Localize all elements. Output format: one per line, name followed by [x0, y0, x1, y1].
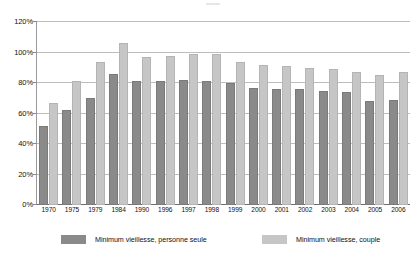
bar-personne-seule: [62, 110, 71, 205]
x-axis-tick-label: 2000: [251, 206, 265, 213]
x-axis-tick-label: 1979: [88, 206, 102, 213]
y-axis-tick-label: 0%: [22, 200, 33, 209]
bar-group: [60, 21, 83, 205]
bar-group: [130, 21, 153, 205]
bar-personne-seule: [272, 89, 281, 205]
y-axis-tick-label: 20%: [18, 169, 33, 178]
y-axis-tick-label: 80%: [18, 78, 33, 87]
legend-item-personne-seule: Minimum vieillesse, personne seule: [61, 233, 207, 246]
scan-artifact: [206, 3, 220, 5]
bar-couple: [189, 54, 198, 205]
x-axis-tick-label: 2003: [321, 206, 335, 213]
bar-couple: [166, 56, 175, 205]
bar-group: [37, 21, 60, 205]
bar-personne-seule: [295, 89, 304, 205]
bar-personne-seule: [179, 80, 188, 205]
x-axis-tick-label: 1996: [158, 206, 172, 213]
bar-personne-seule: [39, 126, 48, 205]
chart-legend: Minimum vieillesse, personne seule Minim…: [0, 233, 419, 249]
bar-group: [293, 21, 316, 205]
x-axis-tick-label: 2005: [368, 206, 382, 213]
bar-couple: [329, 69, 338, 205]
bar-couple: [399, 72, 408, 205]
x-axis-tick-label: 2004: [345, 206, 359, 213]
x-axis-tick-label: 1975: [65, 206, 79, 213]
bar-personne-seule: [156, 81, 165, 205]
bar-group: [270, 21, 293, 205]
x-axis-tick-label: 1998: [205, 206, 219, 213]
legend-item-label: Minimum vieillesse, couple: [296, 235, 380, 244]
x-axis-tick-label: 1970: [42, 206, 56, 213]
x-axis-tick-label: 2006: [391, 206, 405, 213]
bar-group: [224, 21, 247, 205]
bar-group: [317, 21, 340, 205]
bar-group: [247, 21, 270, 205]
bar-group: [107, 21, 130, 205]
y-axis-tick-label: 100%: [14, 47, 33, 56]
bar-couple: [212, 54, 221, 205]
x-axis-tick-label: 2002: [298, 206, 312, 213]
bar-group: [200, 21, 223, 205]
bar-group: [387, 21, 410, 205]
x-axis-tick-label: 1984: [111, 206, 125, 213]
bar-personne-seule: [342, 92, 351, 205]
bar-couple: [142, 57, 151, 205]
bar-group: [340, 21, 363, 205]
y-axis-tick-label: 120%: [14, 17, 33, 26]
bar-couple: [236, 62, 245, 205]
bar-group: [84, 21, 107, 205]
bar-personne-seule: [86, 98, 95, 205]
bar-personne-seule: [226, 83, 235, 205]
bar-couple: [49, 103, 58, 205]
x-axis-tick-label: 2001: [275, 206, 289, 213]
bar-personne-seule: [249, 88, 258, 205]
bar-personne-seule: [365, 101, 374, 205]
bar-couple: [282, 66, 291, 205]
bars-layer: [37, 21, 410, 205]
chart-container: 0%20%40%60%80%100%120% 19701975197919841…: [0, 0, 419, 261]
legend-item-couple: Minimum vieillesse, couple: [262, 233, 380, 246]
bar-couple: [96, 62, 105, 205]
legend-item-label: Minimum vieillesse, personne seule: [95, 235, 207, 244]
x-axis: 1970197519791984199019961997199819992000…: [37, 206, 410, 218]
x-axis-tick-label: 1999: [228, 206, 242, 213]
bar-group: [363, 21, 386, 205]
legend-swatch-icon: [61, 235, 86, 244]
bar-personne-seule: [132, 81, 141, 205]
bar-couple: [352, 72, 361, 205]
y-axis: 0%20%40%60%80%100%120%: [0, 21, 33, 205]
bar-personne-seule: [319, 91, 328, 205]
bar-couple: [305, 68, 314, 205]
x-axis-tick-label: 1990: [135, 206, 149, 213]
bar-couple: [375, 75, 384, 205]
bar-group: [177, 21, 200, 205]
bar-couple: [259, 65, 268, 205]
bar-couple: [72, 81, 81, 205]
legend-swatch-icon: [262, 235, 287, 244]
y-axis-tick-label: 40%: [18, 139, 33, 148]
bar-personne-seule: [109, 74, 118, 205]
x-axis-tick-label: 1997: [181, 206, 195, 213]
y-axis-tick-label: 60%: [18, 108, 33, 117]
bar-group: [154, 21, 177, 205]
bar-couple: [119, 43, 128, 205]
bar-personne-seule: [389, 100, 398, 205]
bar-personne-seule: [202, 81, 211, 205]
